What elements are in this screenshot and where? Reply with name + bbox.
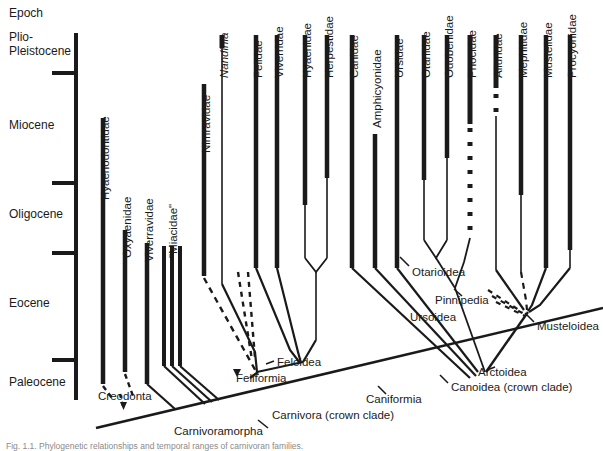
stem-musteloidea <box>486 312 528 372</box>
taxon-label-ursidae: Ursidae <box>393 38 405 78</box>
stem-phocidae <box>455 238 470 288</box>
clade-label-pinnipedia: Pinnipedia <box>435 294 489 306</box>
taxon-label-procyonidae: Procyonidae <box>566 14 578 78</box>
epoch-label-oligocene: Oligocene <box>9 207 63 221</box>
taxon-label-odobenidae: Odobenidae <box>443 15 455 78</box>
epoch-label-plio-pleistocene: Plio-Pleistocene <box>9 30 71 59</box>
clade-label-canoidea: Canoidea (crown clade) <box>451 381 572 393</box>
taxon-label-miacidae: "Miacidae" <box>167 204 179 258</box>
taxon-label-hyaenodontidae: Hyaenodontidae <box>99 116 111 200</box>
clade-label-caniformia: Caniformia <box>366 393 422 405</box>
taxon-label-hyaenidae: Hyaenidae <box>301 23 313 78</box>
taxon-label-oxyaenidae: Oxyaenidae <box>121 197 133 258</box>
taxon-label-mephitidae: Mephitidae <box>517 22 529 78</box>
taxon-label-mustelidae: Mustelidae <box>542 22 554 78</box>
stem-mephitidae-dashed <box>521 272 527 310</box>
node-otarioidea <box>424 240 447 258</box>
taxon-label-amphicyonidae: Amphicyonidae <box>371 49 383 128</box>
carnivoramorpha-stem-taxa <box>96 243 603 428</box>
clade-label-carnivora: Carnivora (crown clade) <box>272 409 394 421</box>
clade-label-feloidea: Feloidea <box>277 356 321 368</box>
epoch-label-miocene: Miocene <box>9 118 54 132</box>
node-hyaenidae-herpestidae <box>305 258 327 272</box>
clade-label-musteloidea: Musteloidea <box>537 320 599 332</box>
epoch-label-paleocene: Paleocene <box>9 375 66 389</box>
creodonta-arrow <box>120 402 127 410</box>
taxon-label-viverravidae: Viverravidae <box>143 198 155 262</box>
clade-label-carnivoramorpha: Carnivoramorpha <box>174 425 263 437</box>
taxon-label-canidae: Canidae <box>348 35 360 78</box>
figure-caption: Fig. 1.1. Phylogenetic relationships and… <box>6 441 303 451</box>
clade-label-ursoidea: Ursoidea <box>410 311 456 323</box>
taxon-label-herpestidae: Herpestidae <box>323 16 335 78</box>
clade-label-feliformia: Feliformia <box>236 372 286 384</box>
epoch-label-eocene: Eocene <box>9 296 50 310</box>
taxon-label-phocidae: Phocidae <box>466 30 478 78</box>
clade-label-creodonta: Creodonta <box>98 390 152 402</box>
clade-label-otarioidea: Otarioidea <box>412 266 465 278</box>
clade-label-arctoidea: Arctoidea <box>478 366 527 378</box>
taxon-label-nandinia: Nandinia <box>218 33 230 78</box>
taxon-label-otariidae: Otariidae <box>420 31 432 78</box>
axis-title: Epoch <box>9 6 43 20</box>
taxon-label-viverridae: Viverridae <box>273 26 285 78</box>
taxon-label-ailuridae: Ailuridae <box>492 33 504 78</box>
feliformia-group <box>204 35 327 378</box>
taxon-label-felidae: Felidae <box>252 40 264 78</box>
taxon-label-nimravidae: Nimravidae <box>200 95 212 153</box>
